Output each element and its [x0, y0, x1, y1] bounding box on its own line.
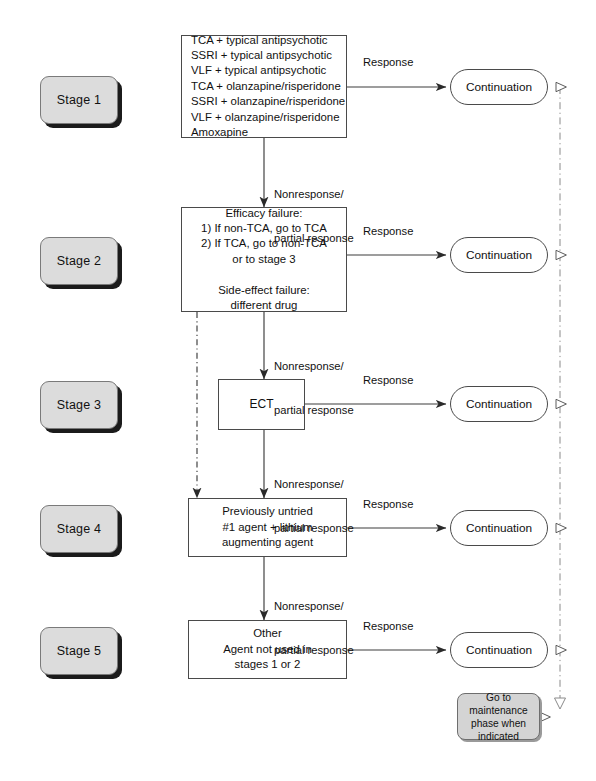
treatment-option: VLF + typical antipsychotic	[191, 63, 326, 78]
side-effect-failure-heading: Side-effect failure:	[218, 283, 310, 298]
continuation-label: Continuation	[466, 521, 532, 535]
nonresponse-line-1: Nonresponse/	[274, 359, 354, 374]
rail-terminal-arrowhead	[555, 698, 566, 709]
stage-pill-3[interactable]: Stage 3	[40, 381, 118, 429]
edge-label-nonresponse-2: Nonresponse/ partial response	[274, 330, 354, 447]
nonresponse-line-2: partial response	[274, 643, 354, 658]
side-effect-action: different drug	[231, 298, 298, 313]
treatment-option: SSRI + olanzapine/risperidone	[191, 94, 345, 109]
continuation-node-2[interactable]: Continuation	[450, 237, 548, 273]
stage1-treatment-box[interactable]: TCA + typical antipsychotic SSRI + typic…	[181, 35, 347, 138]
edge-label-nonresponse-4: Nonresponse/ partial response	[274, 570, 354, 687]
stage-label: Stage 2	[57, 254, 102, 268]
edge-label-response-2: Response	[363, 224, 413, 239]
maintenance-line-3: indicated	[478, 730, 519, 743]
ect-label: ECT	[250, 397, 274, 412]
continuation-label: Continuation	[466, 80, 532, 94]
stage-pill-5[interactable]: Stage 5	[40, 627, 118, 675]
treatment-option: TCA + olanzapine/risperidone	[191, 79, 341, 94]
edge-label-nonresponse-3: Nonresponse/ partial response	[274, 448, 354, 565]
continuation-node-3[interactable]: Continuation	[450, 386, 548, 422]
spacer-line	[262, 267, 265, 282]
nonresponse-line-1: Nonresponse/	[274, 599, 354, 614]
maintenance-line-2: phase when	[471, 717, 526, 730]
edge-label-response-4: Response	[363, 497, 413, 512]
stage-label: Stage 3	[57, 398, 102, 412]
stage-pill-1[interactable]: Stage 1	[40, 76, 118, 124]
stage-pill-2[interactable]: Stage 2	[40, 237, 118, 285]
nonresponse-line-2: partial response	[274, 521, 354, 536]
continuation-label: Continuation	[466, 248, 532, 262]
edge-label-nonresponse-1: Nonresponse/ partial response	[274, 158, 354, 275]
edge-label-response-3: Response	[363, 373, 413, 388]
stage-pill-4[interactable]: Stage 4	[40, 505, 118, 553]
stage-label: Stage 4	[57, 522, 102, 536]
nonresponse-line-2: partial response	[274, 403, 354, 418]
treatment-option: VLF + olanzapine/risperidone	[191, 110, 340, 125]
nonresponse-line-1: Nonresponse/	[274, 187, 354, 202]
nonresponse-line-1: Nonresponse/	[274, 477, 354, 492]
treatment-option: SSRI + typical antipsychotic	[191, 48, 332, 63]
continuation-node-1[interactable]: Continuation	[450, 69, 548, 105]
treatment-option: Amoxapine	[191, 125, 248, 140]
nonresponse-line-2: partial response	[274, 231, 354, 246]
continuation-node-5[interactable]: Continuation	[450, 632, 548, 668]
stage-label: Stage 5	[57, 644, 102, 658]
stage-label: Stage 1	[57, 93, 102, 107]
continuation-node-4[interactable]: Continuation	[450, 510, 548, 546]
maintenance-note-box[interactable]: Go to maintenance phase when indicated	[457, 693, 540, 740]
flowchart-canvas: Stage 1 Stage 2 Stage 3 Stage 4 Stage 5 …	[0, 0, 596, 781]
edge-label-response-1: Response	[363, 55, 413, 70]
continuation-label: Continuation	[466, 397, 532, 411]
continuation-label: Continuation	[466, 643, 532, 657]
edge-label-response-5: Response	[363, 619, 413, 634]
treatment-option: TCA + typical antipsychotic	[191, 33, 327, 48]
maintenance-line-1: Go to maintenance	[458, 691, 539, 717]
